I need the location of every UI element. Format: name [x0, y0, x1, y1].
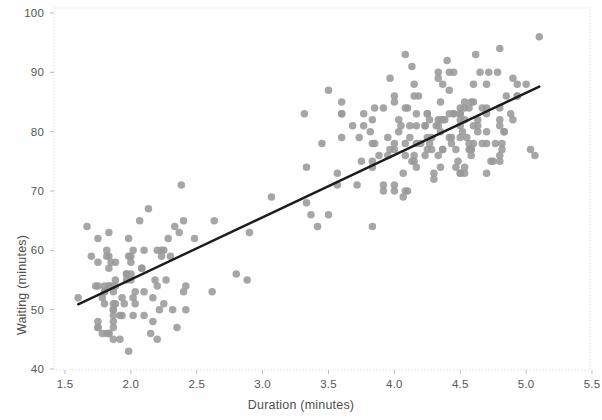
- data-point: [437, 164, 445, 172]
- plot-canvas: [0, 0, 602, 420]
- data-point: [494, 69, 502, 77]
- data-point: [175, 229, 183, 237]
- data-point: [470, 122, 478, 130]
- data-point: [399, 169, 407, 177]
- data-point: [131, 288, 139, 296]
- data-point: [94, 318, 102, 326]
- data-point: [527, 146, 535, 154]
- data-point: [107, 258, 115, 266]
- data-point: [391, 140, 399, 148]
- data-point: [118, 294, 126, 302]
- data-point: [74, 294, 82, 302]
- data-point: [303, 199, 311, 207]
- x-tick-label: 1.5: [57, 378, 74, 390]
- data-point: [448, 140, 456, 148]
- data-point: [522, 80, 530, 88]
- data-point: [182, 282, 190, 290]
- data-point: [83, 223, 91, 231]
- data-point: [439, 146, 447, 154]
- data-point: [145, 205, 153, 213]
- data-point: [413, 110, 421, 118]
- x-tick-label: 5.0: [518, 378, 535, 390]
- data-point: [443, 57, 451, 65]
- data-point: [531, 152, 539, 160]
- data-point: [384, 134, 392, 142]
- data-point: [303, 164, 311, 172]
- x-tick-label: 2.0: [123, 378, 140, 390]
- data-point: [461, 104, 469, 112]
- data-point: [428, 146, 436, 154]
- data-point: [94, 258, 102, 266]
- data-point: [129, 312, 137, 320]
- data-point: [489, 158, 497, 166]
- data-point: [164, 235, 172, 243]
- data-point: [325, 211, 333, 219]
- data-point: [353, 181, 361, 189]
- data-point: [386, 75, 394, 83]
- data-point: [160, 247, 168, 255]
- scatter-plot-figure: 405060708090100 1.52.02.53.03.54.04.55.0…: [0, 0, 602, 420]
- data-point: [147, 330, 155, 338]
- data-point: [483, 128, 491, 136]
- data-point: [437, 98, 445, 106]
- data-point: [386, 146, 394, 154]
- data-point: [156, 306, 164, 314]
- y-axis-title: Waiting (minutes): [15, 185, 29, 385]
- data-point: [439, 116, 447, 124]
- data-point: [492, 140, 500, 148]
- data-point: [369, 223, 377, 231]
- data-point: [314, 223, 322, 231]
- data-point: [476, 69, 484, 77]
- data-point: [246, 229, 254, 237]
- data-point: [380, 181, 388, 189]
- data-point: [496, 45, 504, 53]
- data-point: [349, 122, 357, 130]
- data-point: [509, 75, 517, 83]
- data-point: [402, 152, 410, 160]
- data-point: [410, 158, 418, 166]
- data-point: [371, 104, 379, 112]
- data-point: [446, 86, 454, 94]
- data-point: [360, 122, 368, 130]
- data-point: [424, 110, 432, 118]
- x-tick-label: 3.0: [254, 378, 271, 390]
- y-tick-label: 100: [0, 7, 44, 19]
- data-point: [153, 336, 161, 344]
- data-point: [452, 146, 460, 154]
- data-point: [483, 169, 491, 177]
- data-point: [402, 140, 410, 148]
- data-point: [149, 294, 157, 302]
- data-point: [406, 134, 414, 142]
- data-point: [406, 122, 414, 130]
- data-point: [182, 306, 190, 314]
- data-point: [103, 330, 111, 338]
- data-point: [397, 122, 405, 130]
- data-point: [162, 276, 170, 284]
- x-tick-label: 2.5: [188, 378, 205, 390]
- data-point: [413, 122, 421, 130]
- data-point: [380, 104, 388, 112]
- data-point: [446, 69, 454, 77]
- data-point: [509, 116, 517, 124]
- data-point: [318, 140, 326, 148]
- data-point: [127, 258, 135, 266]
- data-point: [118, 312, 126, 320]
- data-point: [430, 175, 438, 183]
- data-point: [467, 98, 475, 106]
- data-point: [367, 128, 375, 136]
- data-point: [536, 33, 544, 41]
- data-point: [410, 80, 418, 88]
- data-point: [450, 110, 458, 118]
- data-point: [88, 253, 96, 261]
- data-point: [402, 187, 410, 195]
- data-point: [140, 288, 148, 296]
- data-point: [402, 51, 410, 59]
- data-point: [421, 152, 429, 160]
- data-point: [178, 181, 186, 189]
- data-point: [452, 164, 460, 172]
- data-point: [140, 312, 148, 320]
- data-point: [358, 158, 366, 166]
- data-point: [140, 247, 148, 255]
- x-tick-label: 3.5: [320, 378, 337, 390]
- data-point: [116, 336, 124, 344]
